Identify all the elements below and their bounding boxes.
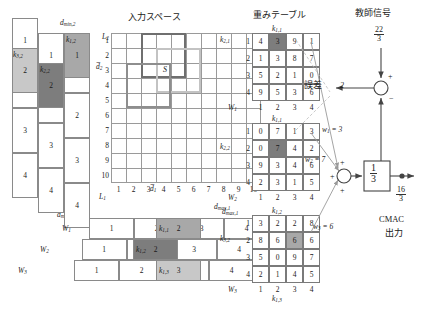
gain-den: 3	[370, 174, 377, 184]
plus-sign-b: +	[330, 172, 335, 181]
error-value: 2	[340, 81, 344, 90]
w2-label: w2 = 7	[305, 155, 325, 164]
plus-sign-c: +	[340, 186, 345, 195]
output-den: 3	[396, 195, 406, 203]
summing-junction-top	[374, 81, 388, 95]
w3-label: w3 = 6	[313, 222, 333, 231]
error-label: 誤差	[304, 78, 322, 91]
cmac-output-value: 163	[396, 186, 406, 205]
teacher-den: 3	[374, 35, 384, 43]
gain-value: 13	[370, 163, 377, 186]
plus-sign-a: +	[340, 158, 345, 167]
minus-sign-top: −	[389, 94, 394, 103]
gain-block	[364, 161, 390, 191]
cmac-output-label: 出力	[385, 226, 403, 239]
w1-label: w1 = 3	[322, 125, 342, 134]
cmac-label: CMAC	[379, 214, 404, 224]
teacher-signal-value: 223	[374, 26, 384, 45]
plus-sign-top: +	[388, 72, 393, 81]
signal-flow-diagram	[0, 0, 426, 317]
summing-junction-bottom	[337, 169, 351, 183]
